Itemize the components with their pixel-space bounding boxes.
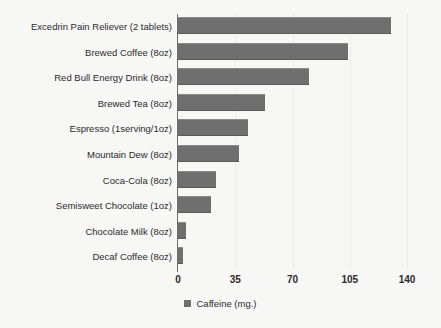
bar[interactable] — [178, 222, 186, 239]
bar-row — [178, 219, 407, 244]
y-axis-line — [177, 14, 178, 272]
bar-row — [178, 40, 407, 65]
y-axis-label: Semisweet Chocolate (1oz) — [56, 193, 172, 218]
x-axis-tick: 105 — [341, 274, 358, 285]
y-axis-label: Espresso (1serving/1oz) — [70, 116, 172, 141]
y-axis-label: Coca-Cola (8oz) — [103, 168, 172, 193]
legend-label: Caffeine (mg.) — [196, 298, 256, 309]
bar-row — [178, 91, 407, 116]
x-axis-tick: 0 — [175, 274, 181, 285]
plot-area — [178, 14, 407, 270]
y-axis-label: Red Bull Energy Drink (8oz) — [54, 65, 172, 90]
y-axis-label: Decaf Coffee (8oz) — [92, 244, 172, 269]
caffeine-bar-chart: Excedrin Pain Reliever (2 tablets)Brewed… — [0, 0, 441, 328]
bar[interactable] — [178, 171, 216, 188]
chart-legend: Caffeine (mg.) — [0, 298, 441, 309]
bar-row — [178, 14, 407, 39]
bar-row — [178, 65, 407, 90]
y-axis-label: Brewed Coffee (8oz) — [85, 40, 172, 65]
y-axis-label: Brewed Tea (8oz) — [98, 91, 172, 116]
bar[interactable] — [178, 196, 211, 213]
bar[interactable] — [178, 43, 348, 60]
legend-swatch-icon — [184, 300, 191, 307]
bar-row — [178, 116, 407, 141]
y-axis-category-labels: Excedrin Pain Reliever (2 tablets)Brewed… — [0, 14, 172, 270]
bar[interactable] — [178, 94, 265, 111]
bar-row — [178, 168, 407, 193]
bars-container — [178, 14, 407, 270]
bar[interactable] — [178, 247, 183, 264]
x-axis-tick: 140 — [399, 274, 416, 285]
x-axis-tick-labels: 03570105140 — [178, 274, 407, 288]
bar-row — [178, 142, 407, 167]
x-axis-tick: 70 — [287, 274, 298, 285]
x-axis-tick: 35 — [230, 274, 241, 285]
bar[interactable] — [178, 145, 239, 162]
bar-row — [178, 244, 407, 269]
bar[interactable] — [178, 68, 309, 85]
y-axis-label: Excedrin Pain Reliever (2 tablets) — [31, 14, 172, 39]
bar-row — [178, 193, 407, 218]
y-axis-label: Mountain Dew (8oz) — [87, 142, 172, 167]
bar[interactable] — [178, 17, 391, 34]
y-axis-label: Chocolate Milk (8oz) — [85, 219, 172, 244]
bar[interactable] — [178, 119, 248, 136]
gridline — [407, 14, 408, 270]
